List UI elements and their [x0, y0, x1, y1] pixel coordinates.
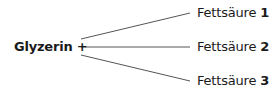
product-fatty-acid-2: Fettsäure 2: [197, 38, 269, 56]
product-label: Fettsäure: [197, 39, 256, 54]
product-fatty-acid-3: Fettsäure 3: [197, 72, 269, 90]
source-label: Glyzerin +: [14, 38, 88, 56]
glycerol-fatty-acid-diagram: Glyzerin + Fettsäure 1 Fettsäure 2 Fetts…: [0, 0, 273, 94]
product-label: Fettsäure: [197, 5, 256, 20]
connector-line-3: [81, 55, 190, 81]
product-label: Fettsäure: [197, 73, 256, 88]
product-number: 1: [260, 5, 269, 20]
product-number: 2: [260, 39, 269, 54]
product-number: 3: [260, 73, 269, 88]
connector-line-1: [81, 13, 190, 39]
product-fatty-acid-1: Fettsäure 1: [197, 4, 269, 22]
